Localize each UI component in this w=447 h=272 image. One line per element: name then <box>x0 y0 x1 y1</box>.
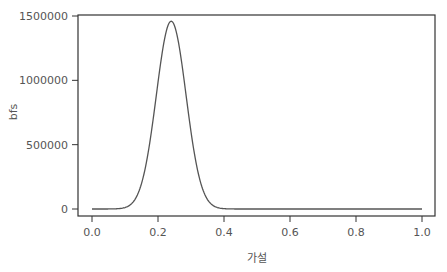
x-tick-label: 0.8 <box>347 226 365 239</box>
y-axis-title: bfs <box>7 103 20 120</box>
plot-frame <box>78 15 435 216</box>
x-tick-label: 1.0 <box>413 226 431 239</box>
y-tick-label: 1000000 <box>19 74 68 87</box>
x-axis-title: 가설 <box>247 252 267 265</box>
x-tick-label: 0.0 <box>83 226 101 239</box>
y-tick-label: 0 <box>61 203 68 216</box>
y-tick-label: 1500000 <box>19 10 68 23</box>
y-axis: 050000010000001500000 <box>19 10 78 216</box>
x-tick-label: 0.4 <box>215 226 233 239</box>
x-tick-label: 0.2 <box>149 226 167 239</box>
data-line <box>92 21 422 209</box>
x-axis: 0.00.20.40.60.81.0 <box>83 216 431 239</box>
x-tick-label: 0.6 <box>281 226 299 239</box>
line-chart: 050000010000001500000 0.00.20.40.60.81.0… <box>0 0 447 272</box>
y-tick-label: 500000 <box>26 139 68 152</box>
